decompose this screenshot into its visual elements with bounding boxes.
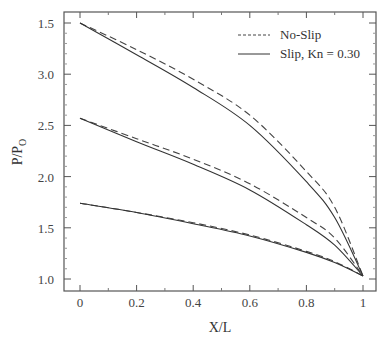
y-tick-label: 1.0	[38, 272, 54, 287]
y-axis-label-group: P/PO	[10, 139, 28, 166]
y-axis-label: P/PO	[10, 139, 28, 166]
x-tick-label: 1	[360, 295, 367, 310]
y-tick-label: 1.5	[38, 221, 54, 236]
legend: No-Slip Slip, Kn = 0.30	[238, 27, 360, 61]
y-axis-label-main: P/P	[10, 146, 25, 166]
x-tick-label: 0.2	[128, 295, 144, 310]
y-tick-label: 3.0	[38, 67, 54, 82]
y-tick-label: 2.5	[38, 118, 54, 133]
x-tick-label: 0.4	[185, 295, 202, 310]
x-tick-label: 0.8	[298, 295, 314, 310]
y-tick-label: 2.0	[38, 170, 54, 185]
slip-curve-5	[80, 203, 363, 276]
y-axis-label-subscript: O	[17, 139, 28, 146]
no-slip-curve-4	[80, 203, 363, 276]
pressure-distribution-chart: 00.20.40.60.811.01.52.02.53.01.5 X/L P/P…	[0, 0, 387, 339]
x-axis-label: X/L	[209, 320, 232, 335]
legend-label-slip: Slip, Kn = 0.30	[280, 46, 360, 61]
y-tick-label: 1.5	[38, 16, 54, 31]
legend-label-no-slip: No-Slip	[280, 27, 321, 42]
x-tick-label: 0	[77, 295, 84, 310]
x-tick-label: 0.6	[242, 295, 259, 310]
